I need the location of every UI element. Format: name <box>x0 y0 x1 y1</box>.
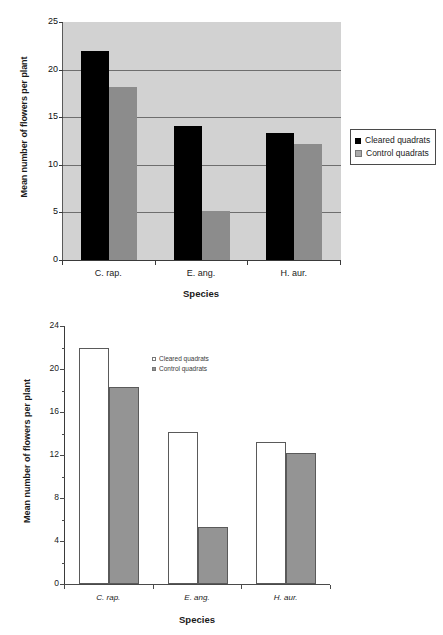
y-tick-label: 15 <box>24 111 58 121</box>
y-tick-label: 12 <box>25 449 59 459</box>
chart-bottom: Mean number of flowers per plant 0481216… <box>0 318 443 635</box>
bar-crap-control <box>109 87 137 260</box>
y-tick-label: 5 <box>24 206 58 216</box>
y-tick-label: 4 <box>25 535 59 545</box>
legend-swatch-cleared-icon <box>152 357 156 361</box>
y-minor-tick-mark <box>62 391 65 392</box>
bar-haur-control <box>294 144 322 260</box>
legend-item-cleared: Cleared quadrats <box>152 354 209 364</box>
legend-swatch-cleared-icon <box>355 138 361 144</box>
legend-top: Cleared quadrats Control quadrats <box>350 129 436 165</box>
legend-swatch-control-icon <box>355 150 362 157</box>
y-tick-mark <box>59 165 63 166</box>
x-axis-line <box>64 584 330 585</box>
y-minor-tick-mark <box>62 563 65 564</box>
y-tick-label: 0 <box>25 578 59 588</box>
x-tick-label: C. rap. <box>68 593 148 602</box>
y-tick-mark <box>60 369 65 370</box>
y-tick-mark <box>60 326 65 327</box>
bar-crap-cleared <box>79 348 109 585</box>
bar-eang-control <box>202 211 230 261</box>
x-tick-label: H. aur. <box>254 268 334 278</box>
x-axis-title: Species <box>64 614 330 625</box>
bar-crap-cleared <box>81 51 109 260</box>
y-tick-mark <box>60 541 65 542</box>
bar-eang-cleared <box>174 126 202 260</box>
x-tick-label: C. rap. <box>68 268 148 278</box>
y-tick-label: 0 <box>24 254 58 264</box>
y-minor-tick-mark <box>62 348 65 349</box>
x-tick-mark <box>330 585 331 589</box>
chart-top: Mean number of flowers per plant 0510152… <box>0 0 443 310</box>
bar-crap-control <box>109 387 139 584</box>
bar-haur-cleared <box>256 442 286 584</box>
y-tick-mark <box>59 22 63 23</box>
x-tick-mark <box>241 585 242 589</box>
legend-bottom: Cleared quadrats Control quadrats <box>152 354 209 374</box>
y-minor-tick-mark <box>62 477 65 478</box>
y-minor-tick-mark <box>62 434 65 435</box>
y-axis-title: Mean number of flowers per plant <box>19 17 29 237</box>
y-tick-label: 20 <box>24 64 58 74</box>
legend-label-cleared: Cleared quadrats <box>159 354 209 364</box>
legend-item-control: Control quadrats <box>355 147 430 160</box>
x-tick-mark <box>64 585 65 589</box>
x-tick-label: H. aur. <box>246 593 326 602</box>
x-axis-line <box>62 260 340 261</box>
legend-label-control: Control quadrats <box>366 147 429 160</box>
y-tick-mark <box>60 412 65 413</box>
x-tick-label: E. ang. <box>161 268 241 278</box>
y-tick-mark <box>59 117 63 118</box>
plot-area-top: 0510152025 <box>62 22 341 260</box>
legend-item-cleared: Cleared quadrats <box>355 134 430 147</box>
legend-item-control: Control quadrats <box>152 364 209 374</box>
bar-haur-cleared <box>266 133 294 260</box>
x-tick-label: E. ang. <box>157 593 237 602</box>
legend-swatch-control-icon <box>152 367 156 371</box>
x-tick-mark <box>62 260 63 265</box>
x-tick-mark <box>247 260 248 265</box>
legend-label-control: Control quadrats <box>159 364 207 374</box>
x-tick-mark <box>340 260 341 265</box>
y-tick-mark <box>59 212 63 213</box>
y-tick-mark <box>60 455 65 456</box>
y-tick-mark <box>59 70 63 71</box>
bar-eang-cleared <box>168 432 198 584</box>
x-axis-title: Species <box>62 288 340 299</box>
y-tick-label: 20 <box>25 363 59 373</box>
bar-haur-control <box>286 453 316 584</box>
y-tick-label: 8 <box>25 492 59 502</box>
y-tick-label: 24 <box>25 320 59 330</box>
bar-eang-control <box>198 527 228 584</box>
y-tick-label: 16 <box>25 406 59 416</box>
y-tick-label: 10 <box>24 159 58 169</box>
x-tick-mark <box>153 585 154 589</box>
y-minor-tick-mark <box>62 520 65 521</box>
x-tick-mark <box>155 260 156 265</box>
y-tick-label: 25 <box>24 16 58 26</box>
legend-label-cleared: Cleared quadrats <box>365 134 430 147</box>
y-tick-mark <box>60 498 65 499</box>
